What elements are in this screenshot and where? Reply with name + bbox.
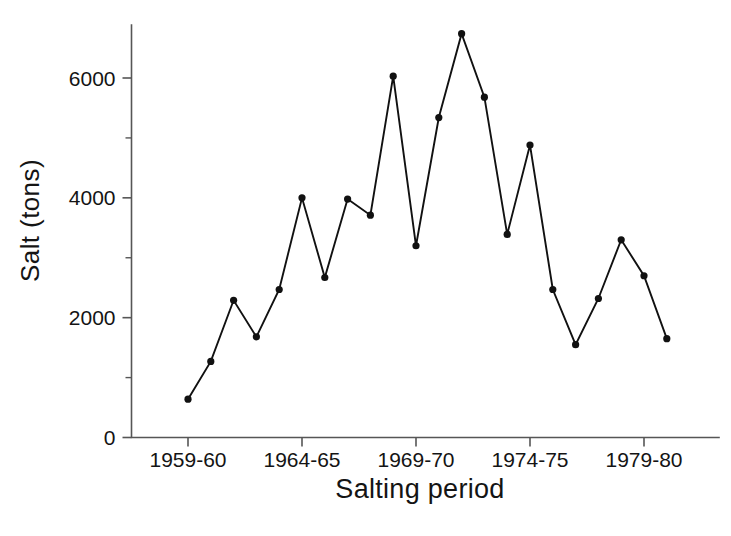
data-point	[640, 272, 647, 279]
y-axis-tick-label: 6000	[69, 67, 116, 90]
series-line	[188, 34, 667, 399]
data-point	[663, 335, 670, 342]
y-axis-tick-label: 4000	[69, 186, 116, 209]
y-axis-tick-label: 0	[104, 426, 116, 449]
data-point	[595, 295, 602, 302]
data-point	[207, 358, 214, 365]
data-point	[618, 236, 625, 243]
data-point	[230, 297, 237, 304]
data-point	[367, 212, 374, 219]
axis-spines	[132, 25, 720, 438]
data-point	[184, 396, 191, 403]
x-axis-tick-label: 1959-60	[149, 448, 226, 471]
data-point	[549, 286, 556, 293]
y-axis-tick-label: 2000	[69, 306, 116, 329]
data-point	[298, 194, 305, 201]
data-point	[253, 333, 260, 340]
x-axis-title: Salting period	[120, 474, 720, 505]
data-point	[321, 274, 328, 281]
data-point	[458, 30, 465, 37]
data-point	[481, 94, 488, 101]
data-point	[435, 114, 442, 121]
data-point	[504, 231, 511, 238]
data-point	[276, 286, 283, 293]
data-point	[572, 341, 579, 348]
data-point	[412, 242, 419, 249]
data-point	[390, 73, 397, 80]
chart-figure: Salt (tons) 02000400060001959-601964-651…	[0, 0, 731, 536]
line-chart-plot: 02000400060001959-601964-651969-701974-7…	[0, 0, 731, 536]
x-axis-tick-label: 1969-70	[377, 448, 454, 471]
data-point	[526, 142, 533, 149]
x-axis-tick-label: 1964-65	[263, 448, 340, 471]
x-axis-tick-label: 1974-75	[491, 448, 568, 471]
data-point	[344, 195, 351, 202]
x-axis-tick-label: 1979-80	[605, 448, 682, 471]
